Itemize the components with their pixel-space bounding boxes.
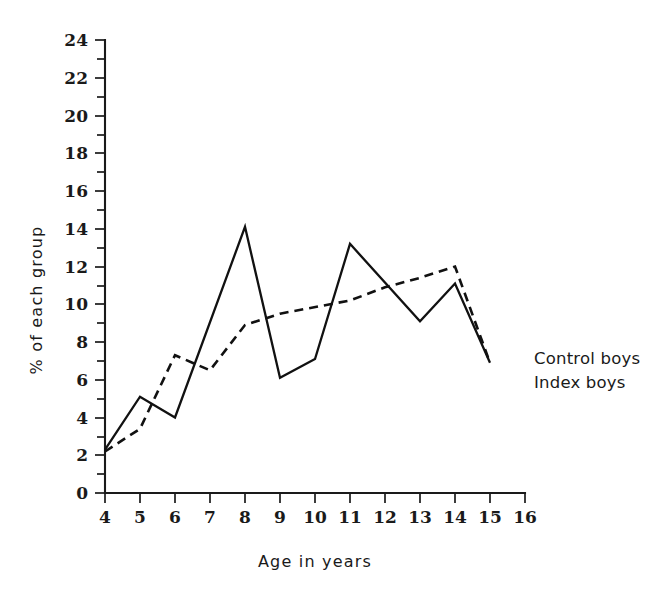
x-tick-label: 13 [408, 507, 432, 527]
x-tick-label: 11 [338, 507, 362, 527]
y-axis-title: % of each group [27, 226, 46, 375]
y-tick-label: 6 [76, 370, 88, 390]
y-tick-label: 12 [64, 257, 88, 277]
y-tick-label: 20 [64, 106, 88, 126]
y-tick-label: 16 [64, 181, 88, 201]
x-tick-label: 10 [303, 507, 327, 527]
y-tick-label: 18 [64, 143, 88, 163]
y-tick-label: 2 [76, 445, 88, 465]
legend-label-index-boys: Index boys [534, 373, 626, 392]
y-tick-label: 10 [64, 294, 88, 314]
x-tick-label: 4 [99, 507, 111, 527]
y-tick-label: 8 [76, 332, 88, 352]
y-tick-label: 0 [76, 483, 88, 503]
x-tick-label: 8 [239, 507, 251, 527]
x-tick-label: 16 [513, 507, 537, 527]
x-tick-label: 5 [134, 507, 146, 527]
x-tick-label: 6 [169, 507, 181, 527]
x-tick-label: 9 [274, 507, 286, 527]
x-tick-label: 12 [373, 507, 397, 527]
x-tick-label: 14 [443, 507, 467, 527]
y-tick-label: 4 [76, 408, 88, 428]
x-tick-label: 15 [478, 507, 502, 527]
chart-background [0, 0, 665, 594]
y-tick-label: 14 [64, 219, 88, 239]
y-tick-label: 24 [64, 30, 88, 50]
line-chart-svg: 0 2 4 6 8 10 12 14 16 18 20 22 24 [0, 0, 665, 594]
x-axis-title: Age in years [258, 552, 372, 571]
y-tick-label: 22 [64, 68, 88, 88]
x-tick-label: 7 [204, 507, 216, 527]
legend-label-control-boys: Control boys [534, 349, 640, 368]
chart-figure: 0 2 4 6 8 10 12 14 16 18 20 22 24 [0, 0, 665, 594]
